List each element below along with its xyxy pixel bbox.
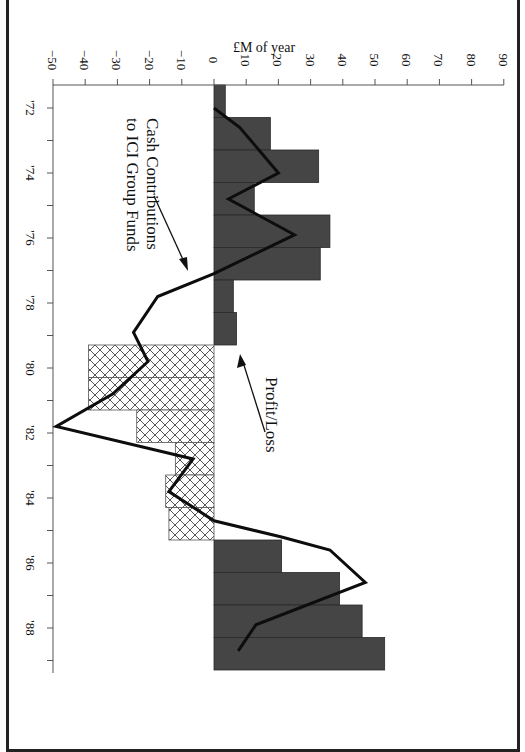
value-tick-label: 10: [238, 54, 253, 67]
year-tick-label: '76: [23, 230, 38, 246]
value-tick-label: 40: [335, 54, 350, 67]
profit-bar: [214, 280, 233, 313]
value-tick-label: 70: [431, 54, 446, 67]
value-tick-label: 80: [464, 54, 479, 67]
value-tick-label: −30: [109, 50, 124, 70]
loss-bar: [137, 410, 214, 443]
year-tick-label: '72: [23, 100, 38, 115]
loss-bar: [88, 378, 214, 411]
year-tick-label: '78: [23, 295, 38, 310]
annotation-cash-line2: to ICI Group Funds: [123, 118, 142, 252]
profit-bar: [214, 313, 237, 346]
loss-bar: [169, 508, 214, 541]
value-tick-label: −40: [77, 50, 92, 70]
year-tick-label: '80: [23, 360, 38, 375]
value-tick-label: 60: [399, 54, 414, 67]
annotation-cash-line1: Cash Contributions: [143, 118, 162, 250]
year-tick-label: '86: [23, 555, 38, 571]
value-tick-label: 0: [206, 57, 221, 64]
loss-bar: [166, 475, 214, 508]
annotation-arrow-profit: [243, 362, 265, 432]
value-axis-title: £M of year: [233, 40, 296, 55]
loss-bar: [88, 345, 214, 378]
profit-bar: [214, 605, 362, 638]
year-tick-label: '82: [23, 425, 38, 440]
year-tick-label: '74: [23, 165, 38, 181]
value-tick-label: −20: [142, 50, 157, 70]
year-tick-label: '84: [23, 490, 38, 506]
value-tick-label: −50: [45, 50, 60, 70]
value-tick-label: 30: [303, 54, 318, 67]
profit-bar: [214, 215, 330, 248]
value-tick-label: 90: [496, 54, 511, 67]
profit-bar: [214, 638, 385, 671]
value-tick-label: 50: [367, 54, 382, 67]
value-tick-label: 20: [270, 54, 285, 67]
profit-bar: [214, 540, 282, 573]
profit-bar: [214, 248, 320, 281]
arrowhead-icon: [179, 257, 188, 271]
annotation-profit-loss: Profit/Loss: [262, 377, 281, 453]
year-tick-label: '88: [23, 620, 38, 635]
value-tick-label: −10: [174, 50, 189, 70]
profit-bar: [214, 118, 270, 151]
